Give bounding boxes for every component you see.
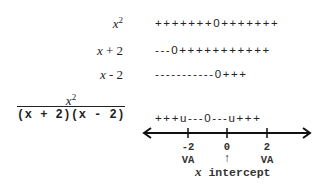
number-line: [0, 0, 323, 184]
x-intercept-caption: x intercept: [195, 164, 271, 180]
tick-label-neg-2: -2: [182, 141, 195, 153]
tick-label-2: 2: [264, 141, 270, 153]
va-label-neg-2: VA: [182, 154, 195, 166]
caption-rest: intercept: [202, 166, 271, 179]
